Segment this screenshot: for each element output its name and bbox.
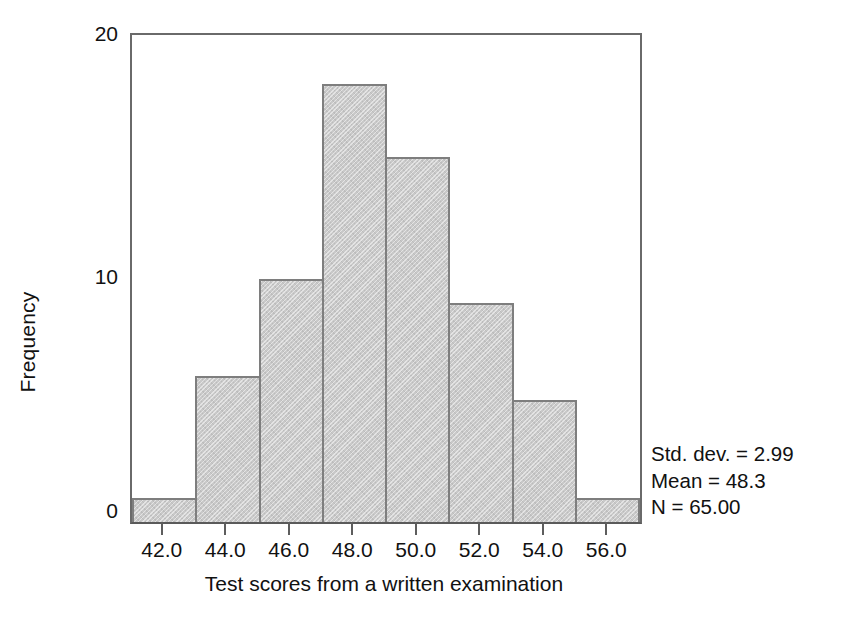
statistics-annotation: Std. dev. = 2.99 Mean = 48.3 N = 65.00 xyxy=(651,441,794,521)
x-tick-label-50: 50.0 xyxy=(384,538,448,566)
bar-44[interactable] xyxy=(195,376,260,522)
plot-area xyxy=(130,33,642,524)
x-axis-tick-marks xyxy=(130,522,638,536)
y-axis-title: Frequency xyxy=(16,222,40,462)
x-tick-label-48: 48.0 xyxy=(321,538,385,566)
x-tick-mark xyxy=(161,522,163,535)
x-tick-label-46: 46.0 xyxy=(257,538,321,566)
x-tick-mark xyxy=(351,522,353,535)
histogram-figure: Frequency 20 10 0 42.0 44.0 xyxy=(0,0,857,640)
x-tick-label-56: 56.0 xyxy=(575,538,639,566)
y-tick-label-10: 10 xyxy=(72,265,118,289)
x-tick-mark xyxy=(542,522,544,535)
x-axis-title: Test scores from a written examination xyxy=(130,572,638,596)
x-tick-cell xyxy=(194,522,258,536)
x-tick-label-52: 52.0 xyxy=(448,538,512,566)
x-tick-cell xyxy=(448,522,512,536)
x-tick-cell xyxy=(130,522,194,536)
n-text: N = 65.00 xyxy=(651,494,794,521)
x-tick-cell xyxy=(575,522,639,536)
x-tick-cell xyxy=(384,522,448,536)
bar-48[interactable] xyxy=(322,84,387,522)
mean-text: Mean = 48.3 xyxy=(651,468,794,495)
std-dev-text: Std. dev. = 2.99 xyxy=(651,441,794,468)
bar-52[interactable] xyxy=(448,303,513,522)
x-axis-tick-labels: 42.0 44.0 46.0 48.0 50.0 52.0 54.0 56.0 xyxy=(130,538,638,566)
bar-56[interactable] xyxy=(575,498,640,522)
bar-54[interactable] xyxy=(512,400,577,522)
x-tick-cell xyxy=(511,522,575,536)
y-tick-label-20: 20 xyxy=(72,22,118,46)
x-tick-mark xyxy=(288,522,290,535)
x-tick-label-44: 44.0 xyxy=(194,538,258,566)
bar-46[interactable] xyxy=(259,279,324,523)
x-tick-label-42: 42.0 xyxy=(130,538,194,566)
x-tick-mark xyxy=(224,522,226,535)
x-tick-cell xyxy=(257,522,321,536)
x-tick-mark xyxy=(415,522,417,535)
x-tick-label-54: 54.0 xyxy=(511,538,575,566)
bar-42[interactable] xyxy=(132,498,197,522)
x-tick-mark xyxy=(605,522,607,535)
y-tick-label-0: 0 xyxy=(72,499,118,523)
y-axis-tick-labels: 20 10 0 xyxy=(72,0,118,640)
x-tick-mark xyxy=(478,522,480,535)
bars-group xyxy=(132,35,640,522)
bar-50[interactable] xyxy=(385,157,450,522)
x-tick-cell xyxy=(321,522,385,536)
